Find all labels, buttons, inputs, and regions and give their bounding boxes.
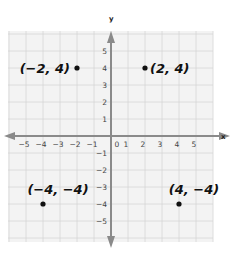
x-tick-label: −5: [18, 140, 29, 149]
coordinate-plane: −5−4−3−2−1012345−5−4−3−2−112345 x y (−2,…: [0, 0, 239, 259]
y-axis-label: y: [109, 15, 114, 23]
y-tick-label: 2: [102, 98, 107, 107]
data-point-label: (−4, −4): [27, 182, 88, 197]
y-tick-label: −4: [96, 200, 107, 209]
data-point: [74, 65, 79, 70]
y-tick-label: −2: [96, 166, 107, 175]
x-tick-label: 0: [115, 140, 120, 149]
data-point: [142, 65, 147, 70]
x-tick-label: 4: [175, 140, 180, 149]
x-tick-label: −2: [69, 140, 80, 149]
data-point: [176, 201, 181, 206]
y-tick-label: 1: [102, 115, 107, 124]
data-point-label: (−2, 4): [20, 61, 70, 76]
x-axis-label: x: [221, 133, 226, 141]
x-tick-label: 2: [141, 140, 146, 149]
y-tick-label: −3: [96, 183, 107, 192]
data-point: [40, 201, 45, 206]
x-tick-label: 3: [158, 140, 163, 149]
y-tick-label: 4: [102, 64, 107, 73]
x-tick-label: −1: [86, 140, 97, 149]
y-tick-label: −1: [96, 149, 107, 158]
y-tick-label: −5: [96, 217, 107, 226]
x-tick-label: −4: [35, 140, 46, 149]
y-tick-label: 5: [102, 47, 107, 56]
x-tick-label: 1: [124, 140, 129, 149]
data-point-label: (4, −4): [169, 182, 219, 197]
y-tick-label: 3: [102, 81, 107, 90]
x-tick-label: 5: [192, 140, 197, 149]
data-point-label: (2, 4): [150, 61, 189, 76]
x-tick-label: −3: [52, 140, 63, 149]
